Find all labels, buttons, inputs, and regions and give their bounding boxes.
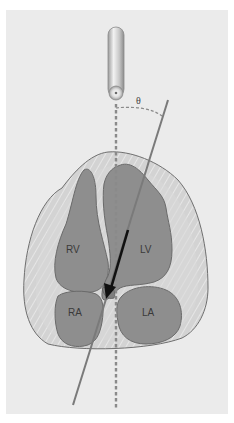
label-lv: LV <box>140 244 152 255</box>
angle-theta-label: θ <box>136 95 141 106</box>
ultrasound-probe <box>108 27 124 100</box>
label-rv: RV <box>66 244 80 255</box>
label-la: LA <box>142 307 155 318</box>
diagram-canvas: θ RV LV RA LA <box>0 0 234 423</box>
label-ra: RA <box>68 307 82 318</box>
doppler-angle-diagram: θ RV LV RA LA <box>0 0 234 423</box>
chamber-ra <box>55 291 103 346</box>
